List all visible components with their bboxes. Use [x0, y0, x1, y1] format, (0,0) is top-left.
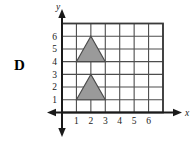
coordinate-grid-figure: y x 1 2 3 4 5 6 1 2 3 4 5 6 — [0, 0, 194, 142]
x-tick-label-5: 5 — [132, 116, 137, 126]
x-tick-label-6: 6 — [146, 116, 151, 126]
x-axis-left-arrow-icon — [47, 109, 56, 116]
x-tick-label-3: 3 — [103, 116, 108, 126]
y-tick-labels: 1 2 3 4 5 6 — [52, 32, 57, 106]
x-tick-label-4: 4 — [117, 116, 122, 126]
y-axis-label: y — [55, 2, 61, 12]
x-axis-label: x — [184, 108, 190, 118]
y-tick-label-4: 4 — [52, 57, 57, 67]
x-tick-labels: 1 2 3 4 5 6 — [74, 116, 151, 126]
y-tick-label-5: 5 — [52, 44, 57, 54]
y-tick-label-6: 6 — [52, 32, 57, 42]
x-axis-right-arrow-icon — [173, 109, 182, 116]
y-tick-label-1: 1 — [52, 95, 57, 105]
y-tick-label-2: 2 — [52, 82, 57, 92]
y-axis-down-arrow-icon — [58, 128, 65, 137]
y-tick-label-3: 3 — [52, 70, 57, 80]
x-tick-label-2: 2 — [88, 116, 93, 126]
x-tick-label-1: 1 — [74, 116, 79, 126]
